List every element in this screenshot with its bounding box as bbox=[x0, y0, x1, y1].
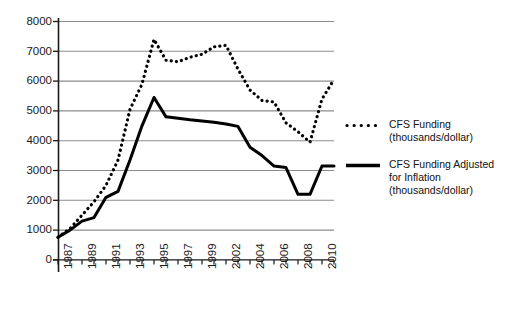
x-tick-label: 1993 bbox=[135, 243, 147, 269]
x-tick-label: 1997 bbox=[183, 243, 195, 269]
x-tick-label: 2002 bbox=[231, 243, 243, 269]
legend-label-line3: (thousands/dollar) bbox=[389, 184, 511, 197]
legend-entry-funding: CFS Funding (thousands/dollar) bbox=[345, 118, 511, 144]
x-tick-label: 1989 bbox=[87, 243, 99, 269]
legend-label-adjusted: CFS Funding Adjusted for Inflation (thou… bbox=[389, 158, 511, 197]
legend-entry-adjusted: CFS Funding Adjusted for Inflation (thou… bbox=[345, 158, 511, 197]
legend-label-line2: for Inflation bbox=[389, 171, 511, 184]
x-tick-label: 2004 bbox=[255, 243, 267, 269]
legend-label-funding: CFS Funding (thousands/dollar) bbox=[389, 118, 511, 144]
legend-label-line1: CFS Funding bbox=[389, 118, 451, 130]
legend-label-line1: CFS Funding Adjusted bbox=[389, 158, 494, 170]
legend-label-line2: (thousands/dollar) bbox=[389, 131, 511, 144]
x-tick-label: 1991 bbox=[111, 243, 123, 269]
chart-legend: CFS Funding (thousands/dollar) CFS Fundi… bbox=[345, 118, 511, 211]
x-tick-label: 1995 bbox=[159, 243, 171, 269]
chart-figure: 8000 7000 6000 5000 4000 3000 2000 1000 … bbox=[0, 0, 511, 329]
x-tick-label: 2008 bbox=[303, 243, 315, 269]
x-tick-label: 2010 bbox=[327, 243, 339, 269]
solid-line-swatch bbox=[345, 163, 381, 168]
x-tick-label: 2006 bbox=[279, 243, 291, 269]
x-tick-label: 1987 bbox=[63, 243, 75, 269]
dotted-line-swatch bbox=[345, 123, 381, 128]
x-tick-label: 1999 bbox=[207, 243, 219, 269]
